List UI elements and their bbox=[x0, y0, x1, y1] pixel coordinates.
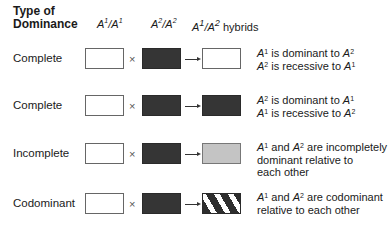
a1a1-white-box bbox=[85, 48, 124, 69]
cross-symbol: × bbox=[129, 100, 135, 112]
cross-symbol: × bbox=[129, 53, 135, 65]
row-type-label: Complete bbox=[13, 99, 62, 111]
header-col-a1a1: A1/A1 bbox=[97, 18, 123, 30]
arrow-icon bbox=[185, 106, 199, 107]
header-line2: Dominance bbox=[13, 18, 78, 31]
header-type-of-dominance: Type of Dominance bbox=[13, 5, 78, 31]
hybrid-striped-box bbox=[202, 193, 241, 214]
row-type-label: Incomplete bbox=[13, 147, 69, 159]
header-col-hybrids: A1/A2 hybrids bbox=[192, 18, 258, 33]
hybrid-gray-box bbox=[202, 143, 241, 164]
row-description: A2 is dominant to A1 A1 is recessive to … bbox=[257, 94, 355, 119]
arrow-icon bbox=[185, 154, 199, 155]
header-col-a2a2: A2/A2 bbox=[151, 18, 177, 30]
a2a2-dark-box bbox=[142, 95, 181, 116]
arrow-icon bbox=[185, 59, 199, 60]
cross-symbol: × bbox=[129, 148, 135, 160]
a1a1-white-box bbox=[85, 95, 124, 116]
a2a2-dark-box bbox=[142, 48, 181, 69]
a2a2-dark-box bbox=[142, 193, 181, 214]
a1a1-white-box bbox=[85, 143, 124, 164]
row-type-label: Codominant bbox=[13, 197, 75, 209]
row-description: A1 and A2 are incompletely dominant rela… bbox=[257, 141, 387, 179]
row-type-label: Complete bbox=[13, 52, 62, 64]
hybrid-white-box bbox=[202, 48, 241, 69]
a2a2-dark-box bbox=[142, 143, 181, 164]
arrow-icon bbox=[185, 204, 199, 205]
row-description: A1 is dominant to A2 A2 is recessive to … bbox=[257, 47, 355, 72]
a1a1-white-box bbox=[85, 193, 124, 214]
row-description: A1 and A2 are codominant relative to eac… bbox=[257, 191, 383, 216]
hybrid-dark-box bbox=[202, 95, 241, 116]
cross-symbol: × bbox=[129, 198, 135, 210]
